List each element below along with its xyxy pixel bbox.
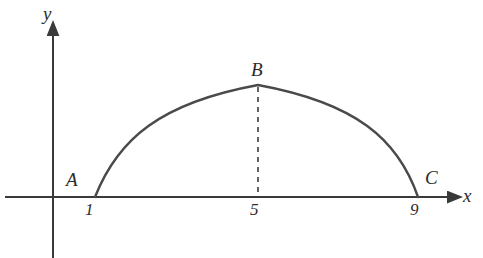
math-figure: A B C y x 1 5 9 (0, 0, 483, 258)
parabolic-arc (95, 85, 418, 197)
figure-canvas (0, 0, 483, 258)
x-tick-label-5: 5 (250, 201, 259, 218)
x-tick-label-9: 9 (410, 201, 419, 218)
x-tick-label-1: 1 (85, 201, 94, 218)
point-label-a: A (66, 170, 78, 189)
point-label-b: B (251, 60, 263, 79)
x-axis-label: x (463, 186, 471, 205)
point-label-c: C (425, 168, 438, 187)
y-axis-label: y (43, 4, 51, 23)
